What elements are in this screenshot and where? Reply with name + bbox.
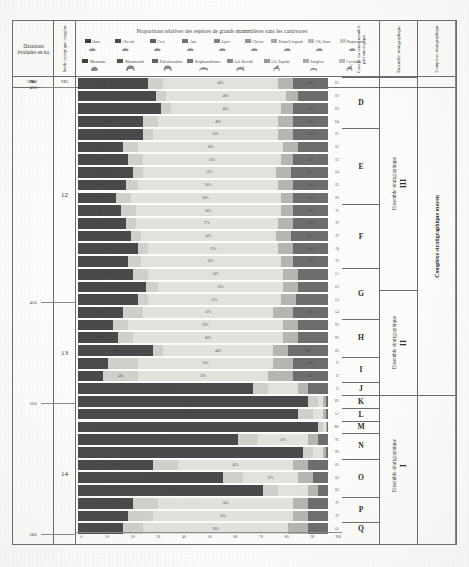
bar-segment: 24% xyxy=(78,294,138,305)
layer-cell: D xyxy=(342,77,380,128)
bar-segment: 19% xyxy=(78,180,126,191)
bar-segment: 54% xyxy=(158,498,293,509)
row-tick: D3 xyxy=(335,107,339,111)
legend-item: Sanglier xyxy=(293,58,333,72)
bar-segment: 14% xyxy=(293,358,328,369)
bar-segment xyxy=(286,91,299,102)
bar-segment: 30% xyxy=(78,345,153,356)
bar-segment: 56% xyxy=(153,511,293,522)
figure-page: Datations évaluées en ka Stade isotopiqu… xyxy=(0,0,469,567)
bar-segment xyxy=(298,320,328,331)
bar-segment: 92% xyxy=(78,396,308,407)
bar-segment xyxy=(161,103,171,114)
bar-segment xyxy=(133,269,148,280)
legend-silhouette-icon xyxy=(121,44,129,52)
table-row: 24%52%14%F4 xyxy=(76,242,342,255)
bar-segment: 14% xyxy=(293,154,328,165)
stacked-bar: 22%53%15% xyxy=(78,167,328,178)
table-row: 54%14%I1 xyxy=(76,357,342,370)
bar-segment xyxy=(153,345,163,356)
legend-item: Stéphanorhinus xyxy=(184,58,224,72)
bar-segment: 14% xyxy=(293,218,328,229)
legend-swatch xyxy=(214,39,220,43)
bar-segment xyxy=(308,460,328,471)
bar-segment: 14% xyxy=(293,193,328,204)
stacked-bar: 74% xyxy=(78,485,328,496)
bar-segment-label: 56% xyxy=(207,259,213,263)
legend-swatch xyxy=(85,39,91,43)
bar-segment xyxy=(293,460,308,471)
stacked-bar: 15%60%14% xyxy=(78,193,328,204)
bar-segment xyxy=(318,434,328,445)
stacked-bar: 88% xyxy=(78,409,328,420)
bar-segment-label: 44% xyxy=(222,107,228,111)
bar-segment: 22% xyxy=(78,167,133,178)
layer-divider xyxy=(342,204,380,205)
bar-segment: 20% xyxy=(78,511,128,522)
bar-segment: 54% xyxy=(138,358,273,369)
row-tick: D1 xyxy=(335,81,339,85)
bar-segment: 14% xyxy=(293,371,328,382)
bar-segment: 26% xyxy=(78,129,143,140)
bar-segment xyxy=(313,409,323,420)
bar-segment-label: 30% xyxy=(112,463,118,467)
table-row: 96%M1 xyxy=(76,421,342,434)
ensemble-divider xyxy=(380,395,418,396)
bar-segment xyxy=(153,460,178,471)
stacked-bar: 30%46% xyxy=(78,460,328,471)
row-tick: P2 xyxy=(336,514,339,518)
legend-row-primary: OursChevalCerfAneLynxChèvreDaim/LéopardC… xyxy=(76,38,368,54)
bar-segment xyxy=(116,193,131,204)
row-tick: N1 xyxy=(335,438,339,442)
bar-segment xyxy=(313,447,323,458)
layer-cell: E xyxy=(342,128,380,204)
bar-segment xyxy=(113,320,128,331)
bar-segment xyxy=(146,282,159,293)
bar-segment: 52% xyxy=(148,243,278,254)
layer-divider xyxy=(342,497,380,498)
bar-segment xyxy=(308,434,318,445)
legend-silhouette-icon xyxy=(309,64,318,72)
bar-segment xyxy=(138,243,148,254)
axis-tick-label: 40 xyxy=(182,535,186,539)
bar-segment-label: 14% xyxy=(307,120,313,124)
bar-segment: 31% xyxy=(78,91,156,102)
bar-segment-label: 14% xyxy=(307,196,313,200)
bar-segment: 30% xyxy=(78,460,153,471)
ensemble-label: Ensemble stratigraphique xyxy=(391,316,397,369)
row-tick: J1 xyxy=(336,387,339,391)
table-row: 18%58%E2 xyxy=(76,141,342,154)
legend-swatch xyxy=(339,59,345,63)
bar-segment: 20% xyxy=(78,154,128,165)
layer-divider xyxy=(342,433,380,434)
bar-segment-label: 16% xyxy=(95,336,101,340)
bar-segment xyxy=(123,307,143,318)
bar-segment: 53% xyxy=(143,167,276,178)
legend-label: Stéphanorhinus xyxy=(195,59,220,64)
bar-segment xyxy=(273,345,288,356)
bar-segment: 88% xyxy=(78,409,298,420)
bar-segment-label: 55% xyxy=(209,158,215,162)
row-tick: E1 xyxy=(335,132,339,136)
bar-segment xyxy=(126,180,139,191)
header-ensemble: Ensemble stratigraphique xyxy=(380,22,418,76)
bar-segment-label: 50% xyxy=(212,132,218,136)
bar-segment-label: 58% xyxy=(147,476,153,480)
ensemble-cell: Ensemble stratigraphiqueI xyxy=(380,395,418,535)
layer-divider xyxy=(342,459,380,460)
legend-silhouette-icon xyxy=(88,44,96,52)
row-tick: D2 xyxy=(335,94,339,98)
bar-segment xyxy=(131,231,141,242)
table-row: 20%56%14%F5 xyxy=(76,255,342,268)
layer-cell: G xyxy=(342,268,380,319)
bar-segment-label: 70% xyxy=(162,387,168,391)
legend-swatch xyxy=(117,59,123,63)
bar-segment-label: 27% xyxy=(109,285,115,289)
bar-segment: 14% xyxy=(293,205,328,216)
row-tick: H3 xyxy=(335,349,339,353)
table-row: 33%44%14%D3 xyxy=(76,102,342,115)
bar-segment xyxy=(298,383,308,394)
bar-segment xyxy=(298,332,328,343)
bar-segment-label: 60% xyxy=(205,336,211,340)
bar-segment-label: 22% xyxy=(102,272,108,276)
